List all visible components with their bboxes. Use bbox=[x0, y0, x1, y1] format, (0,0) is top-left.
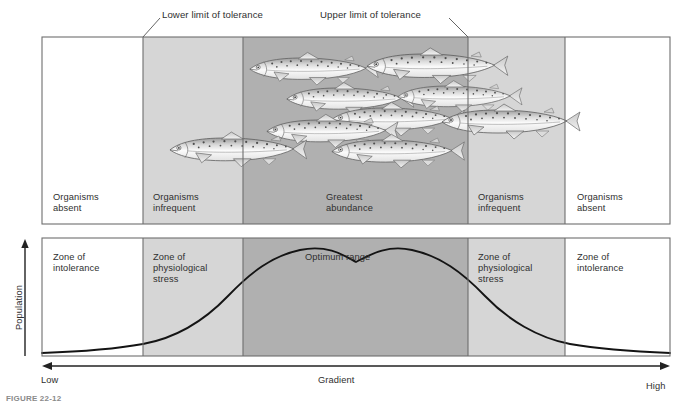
callout-leader-lines bbox=[143, 18, 468, 37]
top-zone-label-organisms-absent-left: Organisms absent bbox=[53, 192, 99, 214]
top-zone-label-organisms-absent-right: Organisms absent bbox=[577, 192, 623, 214]
top-zone-label-organisms-infrequent-left: Organisms infrequent bbox=[153, 192, 199, 214]
x-axis-arrow bbox=[42, 362, 670, 370]
tolerance-diagram: Lower limit of tolerance Upper limit of … bbox=[0, 0, 682, 402]
y-axis-label-population: Population bbox=[14, 285, 24, 330]
bottom-zone-label-stress-right: Zone of physiological stress bbox=[478, 252, 533, 286]
bottom-zone-label-stress-left: Zone of physiological stress bbox=[153, 252, 208, 286]
x-axis-min-label-low: Low bbox=[41, 375, 58, 385]
callout-lower-limit-of-tolerance: Lower limit of tolerance bbox=[162, 9, 263, 20]
lower-limit-leader bbox=[143, 18, 160, 37]
top-zone-label-organisms-infrequent-right: Organisms infrequent bbox=[478, 192, 524, 214]
callout-upper-limit-of-tolerance: Upper limit of tolerance bbox=[320, 9, 421, 20]
top-zone-label-greatest-abundance: Greatest abundance bbox=[326, 192, 373, 214]
figure-caption: FIGURE 22-12 bbox=[6, 394, 61, 402]
x-axis-label-gradient: Gradient bbox=[318, 375, 354, 385]
bottom-zone-label-optimum-range: Optimum range bbox=[305, 252, 370, 263]
upper-limit-leader bbox=[449, 18, 468, 37]
bottom-zone-label-intolerance-right: Zone of intolerance bbox=[577, 252, 624, 274]
x-axis-max-label-high: High bbox=[646, 381, 666, 391]
bottom-zone-label-intolerance-left: Zone of intolerance bbox=[53, 252, 100, 274]
